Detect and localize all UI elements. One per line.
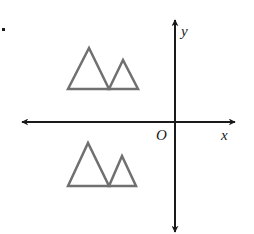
lower-mountain-figure [68, 143, 136, 186]
lower-small-triangle [109, 156, 136, 186]
y-axis-label: y [181, 24, 188, 39]
coordinate-plane-diagram [0, 0, 254, 234]
lower-large-triangle [68, 143, 109, 186]
upper-small-triangle [109, 60, 138, 89]
upper-large-triangle [68, 48, 109, 89]
upper-mountain-figure [68, 48, 138, 89]
origin-label: O [156, 128, 167, 143]
x-axis-label: x [221, 128, 228, 143]
